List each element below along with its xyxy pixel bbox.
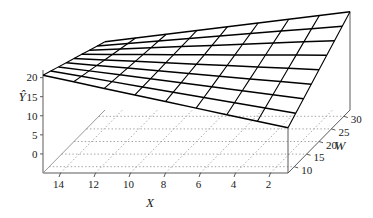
w-tick-label: 25 [338, 126, 350, 138]
x-tick-label: 4 [231, 178, 237, 190]
w-tick-label: 10 [301, 164, 313, 176]
x-tick-label: 14 [53, 178, 65, 190]
z-tick-label: 5 [32, 129, 38, 141]
x-tick-label: 8 [161, 178, 167, 190]
w-axis-title: W [335, 138, 347, 153]
z-tick-label: 20 [27, 71, 39, 83]
surface-plot-figure: 2015105014121086421015202530 Ŷ X W [0, 0, 373, 218]
plot-canvas: 2015105014121086421015202530 Ŷ X W [0, 0, 373, 218]
x-tick-label: 12 [88, 178, 99, 190]
w-tick-label: 15 [314, 151, 326, 163]
z-tick-label: 15 [27, 91, 39, 103]
x-tick-label: 10 [123, 178, 135, 190]
z-tick-label: 0 [32, 148, 38, 160]
w-tick-label: 30 [351, 113, 363, 125]
z-tick-label: 10 [27, 110, 39, 122]
x-tick-label: 6 [196, 178, 202, 190]
x-tick-label: 2 [266, 178, 272, 190]
x-axis-title: X [145, 195, 155, 210]
